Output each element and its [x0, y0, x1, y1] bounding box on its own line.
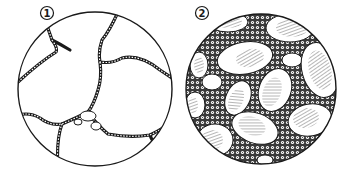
panel-1-label: 1 — [41, 7, 54, 20]
panel-2-number: 2 — [199, 8, 206, 19]
panel-2-tissue — [180, 10, 345, 175]
figure-canvas: 1 — [0, 0, 350, 178]
panel-2-label: 2 — [196, 7, 209, 20]
panel-1-circle — [18, 12, 172, 166]
panel-2: 2 — [180, 7, 345, 176]
panel-1: 1 — [18, 7, 175, 171]
panel-1-number: 1 — [44, 8, 51, 19]
